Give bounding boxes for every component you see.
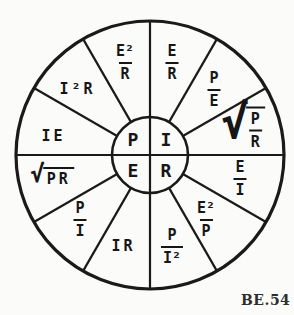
sector-formula-p-over-i: PI bbox=[73, 201, 86, 239]
fraction-numerator: P bbox=[249, 112, 262, 130]
fraction-denominator: E bbox=[207, 89, 220, 109]
fraction-numerator: E bbox=[233, 160, 246, 178]
sector-formula-e2-over-r: E²R bbox=[114, 44, 136, 82]
sector-formula-sqrt-p-over-r: √PR bbox=[221, 107, 265, 150]
center-quantity-r: R bbox=[161, 162, 172, 180]
sector-formula-e-over-i: EI bbox=[233, 160, 246, 198]
sector-formula-e2-over-p: E²P bbox=[195, 201, 217, 239]
fraction-denominator: R bbox=[249, 130, 262, 150]
wheel-circles bbox=[0, 0, 294, 315]
formula-text: IE bbox=[41, 129, 65, 144]
fraction-numerator: P bbox=[73, 201, 86, 219]
fraction-numerator: E² bbox=[195, 201, 217, 219]
fraction-numerator: P bbox=[165, 228, 178, 246]
sector-formula-ir: IR bbox=[111, 239, 132, 254]
fraction-denominator: P bbox=[199, 219, 212, 239]
fraction-denominator: I bbox=[73, 219, 86, 239]
fraction-denominator: I² bbox=[161, 246, 183, 266]
center-quantity-i: I bbox=[161, 131, 172, 149]
sector-formula-i2r: I²R bbox=[59, 82, 92, 97]
sector-formula-e-over-r: ER bbox=[165, 44, 178, 82]
fraction-numerator: P bbox=[207, 71, 220, 89]
formula-text: IR bbox=[111, 239, 135, 254]
sector-formula-p-over-i2: PI² bbox=[161, 228, 183, 266]
sqrt-icon: √ bbox=[30, 166, 44, 183]
formula-text: PR bbox=[44, 167, 74, 187]
sector-formula-p-over-e: PE bbox=[207, 71, 220, 109]
fraction-denominator: R bbox=[118, 62, 131, 82]
fraction-numerator: E bbox=[165, 44, 178, 62]
center-quantity-e: E bbox=[128, 162, 139, 180]
sqrt-icon: √ bbox=[221, 105, 249, 139]
sector-formula-sqrt-pr: √PR bbox=[30, 167, 74, 187]
formula-wheel: ER PE √PR EI E²P PI² IR PI √PR IE I²R E²… bbox=[0, 0, 294, 315]
fraction-numerator: E² bbox=[114, 44, 136, 62]
fraction-denominator: I bbox=[233, 178, 246, 198]
figure-label: BE.54 bbox=[241, 292, 290, 308]
center-quantity-p: P bbox=[128, 131, 139, 149]
sector-formula-ie: IE bbox=[41, 129, 62, 144]
formula-text: I²R bbox=[59, 82, 95, 97]
fraction-denominator: R bbox=[165, 62, 178, 82]
